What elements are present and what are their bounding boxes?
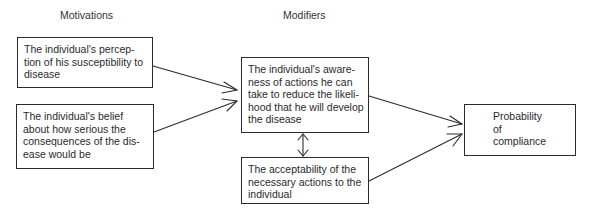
heading-motivations: Motivations (60, 9, 113, 21)
arrow-susceptibility-to-awareness (153, 66, 237, 93)
heading-modifiers: Modifiers (283, 9, 326, 21)
arrow-awareness-to-compliance (369, 96, 462, 127)
box-perceived-seriousness: The individual's belief about how seriou… (16, 104, 154, 169)
box-perceived-susceptibility: The individual's percep- tion of his sus… (17, 37, 153, 88)
box-text-line: take to reduce the likeli- (248, 88, 362, 101)
box-text-line: ness of actions he can (248, 76, 362, 89)
box-text-line: The individual's belief (23, 110, 147, 123)
box-text-line: necessary actions to the (248, 176, 362, 189)
box-text-line: consequences of the dis- (23, 135, 147, 148)
box-text-line: disease (24, 68, 146, 81)
arrow-seriousness-to-awareness (154, 99, 237, 132)
box-text-line: the disease (248, 113, 362, 126)
box-text-line: Probability (493, 110, 569, 123)
box-acceptability-of-actions: The acceptability of the necessary actio… (241, 157, 369, 204)
box-text-line: of (493, 123, 569, 136)
box-text-line: individual (248, 188, 362, 201)
box-text-line: tion of his susceptibility to (24, 56, 146, 69)
box-text-line: ease would be (23, 148, 147, 161)
arrow-acceptability-to-compliance (369, 134, 462, 181)
box-text-line: hood that he will develop (248, 101, 362, 114)
box-probability-of-compliance: Probability of compliance (464, 104, 576, 156)
box-text-line: The acceptability of the (248, 163, 362, 176)
box-text-line: The individual's aware- (248, 63, 362, 76)
box-text-line: compliance (493, 135, 569, 148)
double-arrow-awareness-acceptability (298, 134, 308, 156)
box-awareness-of-actions: The individual's aware- ness of actions … (241, 57, 369, 133)
box-text-line: The individual's percep- (24, 43, 146, 56)
box-text-line: about how serious the (23, 123, 147, 136)
